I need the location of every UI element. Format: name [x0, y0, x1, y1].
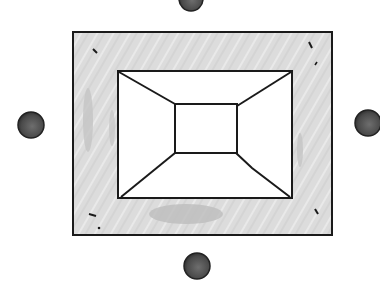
smudge-bottom [149, 204, 223, 224]
diagram-canvas [0, 0, 380, 285]
dot-left [18, 112, 44, 138]
smudge-left-2 [109, 110, 115, 146]
inner-opening [118, 71, 292, 198]
tick-dot [98, 227, 101, 230]
back-wall [175, 104, 237, 153]
dot-top [179, 0, 203, 11]
smudge-left [83, 88, 93, 152]
dot-right [355, 110, 380, 136]
dot-bottom [184, 253, 210, 279]
smudge-right [297, 133, 303, 167]
